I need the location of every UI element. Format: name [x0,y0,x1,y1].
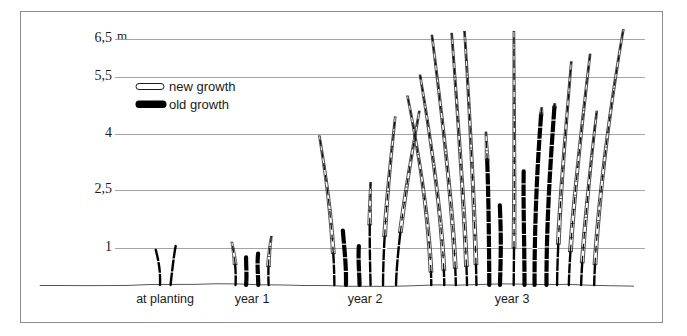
stem-old-growth [171,246,176,285]
legend-swatches [136,84,166,108]
chart-plot-area [0,0,687,336]
stem-old-growth [370,225,371,285]
stem-new-growth [402,111,420,232]
stem-old-growth [258,254,259,285]
stem-new-growth [515,31,516,248]
stem-new-growth [572,54,591,252]
stem-new-growth [597,30,624,265]
stem-old-growth [524,171,525,285]
stem-new-growth [512,31,513,248]
chart-figure: 6,5 m 5,5 4 2,5 1 at planting year 1 yea… [0,0,687,336]
stem-group [155,30,624,286]
stem-old-growth [557,244,558,285]
legend-swatch-new-growth [136,84,164,90]
stem-core-line [370,183,371,225]
stem-core-line [541,107,542,115]
chart-svg [0,0,687,336]
legend-swatch-old-growth [136,101,166,108]
stem-old-growth [156,250,160,285]
stem-old-growth [333,254,334,285]
gridlines [115,39,645,248]
stem-old-growth [359,246,360,285]
stem-old-growth [569,252,571,285]
stem-new-growth [560,62,572,244]
stem-new-growth [431,35,453,268]
stem-new-growth [231,242,233,264]
